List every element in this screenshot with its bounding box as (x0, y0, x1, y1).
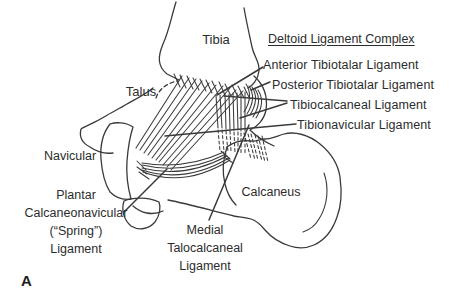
medial-talocalcaneal-label-line-2: Talocalcaneal (167, 239, 243, 257)
spring-ligament-fibers (142, 152, 230, 178)
label-deltoid-ligament-complex-title: Deltoid Ligament Complex (268, 32, 415, 46)
medial-talocalcaneal-label-line-3: Ligament (167, 257, 243, 275)
tibiocalcaneal-dashed-fibers (218, 130, 245, 154)
panel-letter: A (21, 272, 32, 289)
calcaneus-front-edge (223, 147, 236, 205)
label-anterior-tibiotalar-ligament: Anterior Tibiotalar Ligament (263, 58, 419, 72)
label-posterior-tibiotalar-ligament: Posterior Tibiotalar Ligament (272, 78, 434, 92)
label-plantar-calcaneonavicular-spring-ligament: Plantar Calcaneonavicular (“Spring”) Lig… (25, 186, 128, 258)
spring-label-line-3: (“Spring”) (25, 222, 128, 240)
cuboid-top-edge (133, 206, 163, 213)
label-calcaneus: Calcaneus (241, 185, 300, 199)
spring-label-line-1: Plantar (25, 186, 128, 204)
label-tibionavicular-ligament: Tibionavicular Ligament (297, 118, 431, 132)
spring-label-line-2: Calcaneonavicular (25, 204, 128, 222)
label-talus: Talus (126, 84, 156, 99)
figure-panel: Tibia Talus Navicular Calcaneus Deltoid … (0, 0, 460, 296)
label-tibia: Tibia (202, 32, 230, 47)
calcaneus-inner-arc (303, 173, 327, 232)
tibia-outline-right-medial-malleolus (244, 8, 259, 88)
label-medial-talocalcaneal-ligament: Medial Talocalcaneal Ligament (167, 221, 243, 275)
leader-medial-talocalcaneal (209, 125, 249, 220)
label-tibiocalcaneal-ligament: Tibiocalcaneal Ligament (290, 98, 427, 112)
leader-spring-ligament (124, 169, 167, 212)
spring-label-line-4: Ligament (25, 240, 128, 258)
label-navicular: Navicular (44, 149, 96, 163)
talus-dome-dashed-edge (156, 81, 178, 98)
medial-talocalcaneal-label-line-1: Medial (167, 221, 243, 239)
tibia-outline-left (159, 2, 179, 80)
medial-talocalcaneal-dashed-fibers (244, 133, 268, 162)
